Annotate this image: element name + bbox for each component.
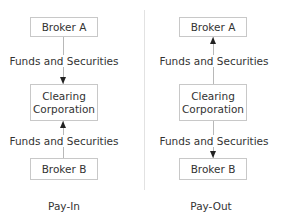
- arrow-up-icon: [210, 37, 216, 44]
- arrow-down-icon: [210, 151, 216, 158]
- payout-broker-b-box: Broker B: [179, 158, 247, 180]
- payout-clearing-corporation-box: Clearing Corporation: [179, 84, 247, 121]
- payout-broker-a-label: Broker A: [191, 21, 236, 34]
- payin-upper-flow-label: Funds and Securities: [8, 55, 119, 67]
- payout-lower-flow-label: Funds and Securities: [158, 135, 269, 147]
- payin-broker-b-box: Broker B: [30, 158, 98, 180]
- payin-lower-flow-label: Funds and Securities: [8, 135, 119, 147]
- payin-caption: Pay-In: [48, 200, 80, 212]
- payin-clearing-corporation-label: Clearing Corporation: [33, 90, 95, 116]
- arrow-down-icon: [60, 77, 66, 84]
- payout-caption: Pay-Out: [190, 200, 231, 212]
- payout-broker-b-label: Broker B: [191, 163, 236, 176]
- section-divider: [144, 10, 145, 190]
- arrow-up-icon: [60, 121, 66, 128]
- payout-clearing-corporation-label: Clearing Corporation: [182, 90, 244, 116]
- payout-broker-a-box: Broker A: [179, 17, 247, 37]
- payin-clearing-corporation-box: Clearing Corporation: [30, 84, 98, 121]
- payin-broker-b-label: Broker B: [42, 163, 87, 176]
- payin-broker-a-box: Broker A: [30, 17, 98, 37]
- payout-upper-flow-label: Funds and Securities: [158, 55, 269, 67]
- payin-broker-a-label: Broker A: [42, 21, 87, 34]
